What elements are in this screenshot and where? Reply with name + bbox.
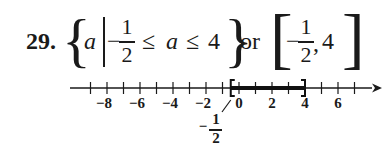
number-line <box>0 0 390 157</box>
tick-label: −4 <box>155 95 185 112</box>
callout-denominator: 2 <box>208 130 224 147</box>
tick-label: 2 <box>257 95 287 112</box>
tick-label: 4 <box>290 95 320 112</box>
tick-label: 6 <box>323 95 353 112</box>
tick-label: −6 <box>122 95 152 112</box>
callout-numerator: 1 <box>208 111 224 128</box>
tick-label: −2 <box>188 95 218 112</box>
tick-label: 0 <box>224 95 254 112</box>
tick-label: −8 <box>89 95 119 112</box>
